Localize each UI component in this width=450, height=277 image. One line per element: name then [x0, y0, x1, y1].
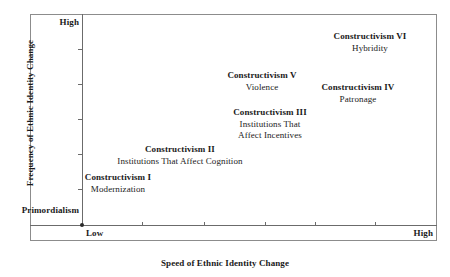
annotation-subtitle-line-2: Affect Incentives — [200, 130, 340, 142]
ethnic-identity-change-diagram: High Primordialism Low High Frequency of… — [0, 0, 450, 277]
y-axis-title: Frequency of Ethnic Identity Change — [25, 13, 35, 213]
annotation-constructivism-5: Constructivism V Violence — [192, 70, 332, 93]
x-axis-min-label: Low — [86, 228, 103, 238]
annotation-subtitle: Hybridity — [308, 43, 432, 55]
annotation-title: Constructivism III — [200, 107, 340, 119]
axis-origin-marker — [80, 223, 84, 227]
x-axis-tick — [204, 222, 205, 226]
x-axis-title: Speed of Ethnic Identity Change — [0, 258, 450, 268]
x-axis-tick — [265, 222, 266, 226]
y-axis-max-label: High — [0, 17, 79, 27]
y-axis-tick — [78, 84, 82, 85]
y-axis-tick — [78, 119, 82, 120]
annotation-title: Constructivism II — [75, 144, 285, 156]
annotation-title: Constructivism V — [192, 70, 332, 82]
annotation-constructivism-1: Constructivism I Modernization — [38, 172, 198, 195]
annotation-subtitle: Institutions That Affect Cognition — [75, 156, 285, 168]
x-axis-max-label: High — [330, 228, 433, 238]
annotation-subtitle: Patronage — [296, 94, 420, 106]
annotation-subtitle: Modernization — [38, 184, 198, 196]
annotation-title: Constructivism VI — [308, 31, 432, 43]
x-axis-tick — [142, 222, 143, 226]
annotation-title: Constructivism I — [38, 172, 198, 184]
x-axis-tick — [375, 222, 376, 226]
annotation-subtitle: Violence — [192, 82, 332, 94]
annotation-constructivism-2: Constructivism II Institutions That Affe… — [75, 144, 285, 167]
y-axis-min-label: Primordialism — [0, 205, 79, 215]
annotation-constructivism-6: Constructivism VI Hybridity — [308, 31, 432, 54]
x-axis-tick — [315, 222, 316, 226]
y-axis-tick — [78, 49, 82, 50]
annotation-subtitle-line-1: Institutions That — [200, 119, 340, 131]
annotation-constructivism-3: Constructivism III Institutions That Aff… — [200, 107, 340, 142]
